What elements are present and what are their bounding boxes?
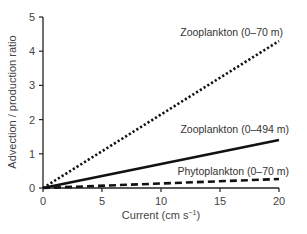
- svg-text:10: 10: [155, 195, 167, 207]
- x-axis-title: Current (cm s−1): [122, 209, 200, 221]
- chart: 0 1 2 3 4 5 0 5 10 15 20 Current (cm s−1…: [0, 0, 307, 234]
- svg-text:5: 5: [99, 195, 105, 207]
- label-zooplankton-0-70m: Zooplankton (0–70 m): [180, 26, 283, 38]
- y-axis-title: Advection / production ratio: [6, 35, 18, 168]
- svg-text:1: 1: [29, 148, 35, 160]
- svg-text:5: 5: [29, 11, 35, 23]
- y-tick-labels: 0 1 2 3 4 5: [29, 11, 35, 194]
- svg-text:3: 3: [29, 79, 35, 91]
- svg-text:20: 20: [273, 195, 285, 207]
- svg-text:15: 15: [214, 195, 226, 207]
- x-tick-labels: 0 5 10 15 20: [40, 195, 285, 207]
- label-zooplankton-0-494m: Zooplankton (0–494 m): [180, 123, 289, 135]
- label-phytoplankton-0-70m: Phytoplankton (0–70 m): [178, 165, 289, 177]
- svg-text:4: 4: [29, 45, 35, 57]
- svg-text:0: 0: [40, 195, 46, 207]
- svg-text:0: 0: [29, 182, 35, 194]
- svg-text:2: 2: [29, 114, 35, 126]
